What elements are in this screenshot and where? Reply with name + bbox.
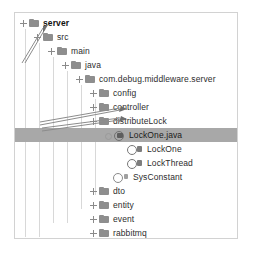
folder-icon xyxy=(29,18,40,28)
tree-row[interactable]: com.debug.middleware.server xyxy=(15,72,237,86)
tree-row-label: LockOne.java xyxy=(129,128,182,142)
tree-row-label: src xyxy=(57,30,69,44)
tree-row-label: LockThread xyxy=(147,156,193,170)
tree-row[interactable]: rabbitmq xyxy=(15,226,237,239)
package-icon xyxy=(99,200,110,210)
package-icon xyxy=(99,186,110,196)
package-icon xyxy=(99,214,110,224)
folder-icon xyxy=(43,32,54,42)
tree-row[interactable]: LockThread xyxy=(15,156,237,170)
expand-toggle-icon[interactable] xyxy=(89,89,98,98)
tree-row[interactable]: distributeLock xyxy=(15,114,237,128)
tree-row-label: rabbitmq xyxy=(113,226,147,239)
tree-row[interactable]: src xyxy=(15,30,237,44)
tree-row[interactable]: SysConstant xyxy=(15,170,237,184)
expand-toggle-icon[interactable] xyxy=(89,117,98,126)
tree-row[interactable]: LockOne xyxy=(15,142,237,156)
tree-row-label: java xyxy=(85,58,101,72)
expand-toggle-icon[interactable] xyxy=(19,19,28,28)
package-icon xyxy=(99,116,110,126)
folder-icon xyxy=(57,46,68,56)
package-icon xyxy=(99,228,110,238)
expand-toggle-icon[interactable] xyxy=(89,215,98,224)
expand-toggle-icon[interactable] xyxy=(89,229,98,238)
tree-row-label: LockOne xyxy=(147,142,182,156)
tree-row[interactable]: dto xyxy=(15,184,237,198)
tree-row-label: SysConstant xyxy=(133,170,182,184)
tree-row-label: main xyxy=(71,44,90,58)
tree-row[interactable]: LockOne.java xyxy=(15,128,237,142)
project-tree-panel[interactable]: serversrcmainjavacom.debug.middleware.se… xyxy=(14,12,238,239)
java-class-icon xyxy=(113,172,130,182)
tree-row-label: config xyxy=(113,86,136,100)
expand-toggle-icon[interactable] xyxy=(89,201,98,210)
tree-row-label: server xyxy=(43,16,69,30)
tree-row[interactable]: entity xyxy=(15,198,237,212)
expand-toggle-icon[interactable] xyxy=(89,187,98,196)
tree-row-label: controller xyxy=(113,100,149,114)
expand-toggle-icon[interactable] xyxy=(47,47,56,56)
tree-row-label: event xyxy=(113,212,134,226)
tree-row-label: entity xyxy=(113,198,134,212)
expand-toggle-icon[interactable] xyxy=(61,61,70,70)
expand-toggle-icon[interactable] xyxy=(75,75,84,84)
package-icon xyxy=(99,102,110,112)
java-class-lock-icon xyxy=(127,158,144,168)
folder-icon xyxy=(71,60,82,70)
java-file-icon xyxy=(113,130,126,140)
tree-row[interactable]: event xyxy=(15,212,237,226)
tree-row[interactable]: java xyxy=(15,58,237,72)
tree-row-label: dto xyxy=(113,184,125,198)
java-class-lock-icon xyxy=(127,144,144,154)
tree-row[interactable]: controller xyxy=(15,100,237,114)
tree-row-label: distributeLock xyxy=(113,114,167,128)
package-icon xyxy=(99,88,110,98)
tree-row[interactable]: server xyxy=(15,16,237,30)
tree-rows: serversrcmainjavacom.debug.middleware.se… xyxy=(15,16,237,239)
expand-toggle-icon[interactable] xyxy=(89,103,98,112)
tree-row-label: com.debug.middleware.server xyxy=(99,72,216,86)
expand-toggle-icon[interactable] xyxy=(33,33,42,42)
tree-row[interactable]: config xyxy=(15,86,237,100)
tree-row[interactable]: main xyxy=(15,44,237,58)
expand-toggle-icon[interactable] xyxy=(103,131,112,140)
package-icon xyxy=(85,74,96,84)
